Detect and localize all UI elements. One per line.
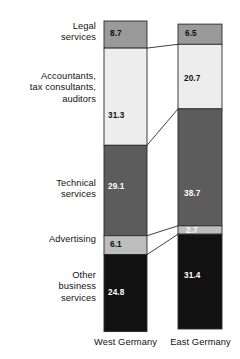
category-label-technical-services: Technical services <box>4 178 96 201</box>
category-label-accountants: Accountants, tax consultants, auditors <box>4 71 96 105</box>
connector-lines <box>147 44 178 254</box>
value-west-advertising: 6.1 <box>110 240 122 249</box>
value-west-legal: 8.7 <box>110 29 122 38</box>
value-east-accountants: 20.7 <box>184 74 200 83</box>
value-east-legal: 6.5 <box>185 29 197 38</box>
value-east-advertising: 2.7 <box>186 226 198 235</box>
segment-east-advertising[interactable] <box>178 226 222 234</box>
bar-east-germany[interactable] <box>178 24 222 329</box>
value-west-accountants: 31.3 <box>108 111 124 120</box>
category-label-advertising: Advertising <box>4 234 96 245</box>
segment-east-technical[interactable] <box>178 109 222 226</box>
value-west-technical: 29.1 <box>108 182 124 191</box>
value-west-other: 24.8 <box>108 288 124 297</box>
segment-west-accountants[interactable] <box>104 48 147 145</box>
segment-east-other[interactable] <box>178 234 222 329</box>
stacked-bar-chart: Legal services Accountants, tax consulta… <box>0 0 240 359</box>
category-label-other-business-services: Other business services <box>4 270 96 304</box>
value-east-other: 31.4 <box>184 271 200 280</box>
category-label-legal-services: Legal services <box>4 21 96 44</box>
bar-west-germany[interactable] <box>104 21 147 332</box>
value-east-technical: 38.7 <box>184 189 200 198</box>
axis-label-east-germany: East Germany <box>163 337 238 348</box>
axis-label-west-germany: West Germany <box>88 337 163 348</box>
